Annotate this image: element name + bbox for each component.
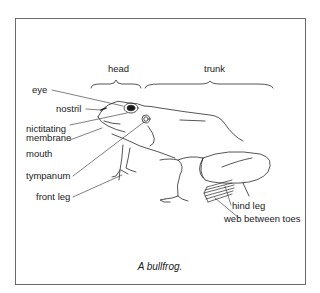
label-mouth: mouth	[26, 149, 52, 159]
label-hind-leg: hind leg	[232, 201, 265, 211]
head-brace	[91, 80, 141, 88]
frog-outline-head	[98, 101, 243, 141]
hind-leg	[201, 152, 270, 183]
label-web-between-toes: web between toes	[224, 214, 301, 224]
bullfrog-drawing	[0, 0, 320, 293]
trunk-brace	[145, 81, 273, 88]
label-eye: eye	[32, 85, 47, 95]
front-leg	[112, 145, 128, 180]
label-nictitating-line2: membrane	[26, 133, 71, 142]
region-label-trunk: trunk	[204, 64, 225, 74]
label-front-leg: front leg	[36, 192, 70, 202]
webbed-foot	[204, 180, 234, 202]
label-nictitating-membrane: nictitating membrane	[26, 124, 71, 142]
label-tympanum: tympanum	[26, 171, 70, 181]
region-label-head: head	[108, 64, 129, 74]
figure-caption: A bullfrog.	[0, 261, 320, 272]
label-nostril: nostril	[56, 104, 81, 114]
